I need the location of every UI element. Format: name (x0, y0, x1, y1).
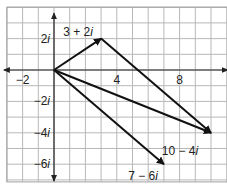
x-tick-label: 4 (113, 73, 120, 87)
y-tick-label: −4i (34, 126, 51, 140)
point-label: 7 − 6i (128, 169, 158, 183)
x-tick-label: −2 (16, 73, 30, 87)
labels: −2482i−2i−4i−6i3 + 2i10 − 4i7 − 6i (16, 25, 199, 183)
y-tick-label: −2i (34, 94, 51, 108)
y-tick-label: −6i (34, 157, 51, 171)
y-tick-label: 2i (41, 32, 51, 46)
point-label: 10 − 4i (162, 144, 199, 158)
complex-plane-diagram: −2482i−2i−4i−6i3 + 2i10 − 4i7 − 6i (0, 0, 227, 185)
x-tick-label: 8 (176, 73, 183, 87)
point-label: 3 + 2i (63, 25, 93, 39)
